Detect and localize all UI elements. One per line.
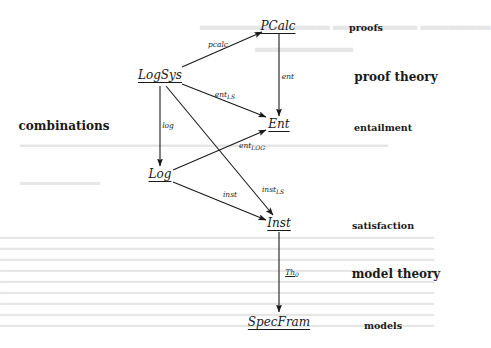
label-ent: ent [282, 72, 294, 81]
label-log: log [162, 121, 174, 130]
node-pcalc: PCalc [261, 19, 296, 33]
label-th0: Th0 [285, 268, 299, 278]
label-pcalc: pcalc [208, 40, 228, 49]
side-label-proof-theory: proof theory [354, 70, 437, 84]
node-inst: Inst [267, 216, 290, 230]
side-label-proofs: proofs [349, 22, 383, 33]
side-label-satisfaction: satisfaction [352, 220, 414, 231]
side-label-entailment: entailment [354, 122, 412, 133]
node-log: Log [149, 167, 172, 181]
side-label-combinations: combinations [18, 119, 109, 133]
arrow-ent-ls [182, 84, 266, 117]
side-label-models: models [364, 320, 402, 331]
node-specfram: SpecFram [248, 315, 310, 329]
arrow-pcalc [182, 32, 262, 67]
label-ent-log: entLOG [239, 141, 265, 151]
side-label-model-theory: model theory [352, 267, 441, 281]
arrow-inst [173, 182, 266, 220]
label-inst-ls: instLS [262, 185, 284, 195]
label-ent-ls: entLS [215, 90, 235, 100]
node-logsys: LogSys [138, 68, 182, 82]
label-inst: inst [223, 190, 237, 199]
node-ent: Ent [268, 117, 289, 131]
